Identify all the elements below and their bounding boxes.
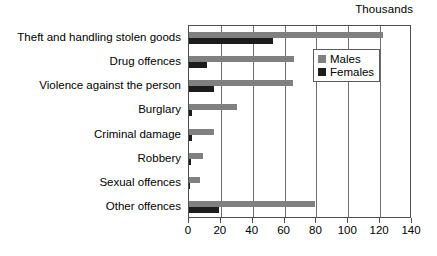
- x-tick-label: 60: [277, 224, 290, 236]
- x-tick: [347, 218, 348, 223]
- x-tick: [188, 218, 189, 223]
- bar-row: [189, 123, 410, 147]
- category-label: Sexual offences: [99, 176, 181, 188]
- crime-by-gender-bar-chart: Thousands Theft and handling stolen good…: [0, 0, 437, 256]
- bar-row: [189, 98, 410, 122]
- x-tick-label: 120: [370, 224, 389, 236]
- bar-females: [189, 62, 207, 68]
- x-tick: [315, 218, 316, 223]
- bar-males: [189, 177, 200, 183]
- bar-females: [189, 38, 273, 44]
- legend-label-females: Females: [330, 66, 374, 78]
- x-tick: [379, 218, 380, 223]
- x-tick-label: 0: [185, 224, 191, 236]
- bar-females: [189, 86, 214, 92]
- x-tick-label: 40: [245, 224, 258, 236]
- bar-females: [189, 159, 191, 165]
- category-label: Robbery: [138, 152, 181, 164]
- bar-females: [189, 135, 192, 141]
- bar-males: [189, 129, 214, 135]
- x-tick-label: 20: [213, 224, 226, 236]
- category-axis-labels: Theft and handling stolen goodsDrug offe…: [0, 25, 185, 218]
- bar-females: [189, 207, 219, 213]
- legend-swatch-males-icon: [318, 55, 326, 63]
- legend-swatch-females-icon: [318, 68, 326, 76]
- category-label: Criminal damage: [94, 128, 181, 140]
- category-label: Drug offences: [110, 55, 181, 67]
- bar-row: [189, 171, 410, 195]
- bar-females: [189, 183, 190, 189]
- bar-males: [189, 153, 203, 159]
- category-label: Violence against the person: [39, 79, 181, 91]
- bar-row: [189, 147, 410, 171]
- x-tick: [411, 218, 412, 223]
- x-tick-label: 100: [338, 224, 357, 236]
- x-tick-label: 80: [309, 224, 322, 236]
- bar-row: [189, 26, 410, 50]
- legend-item-females: Females: [318, 65, 374, 78]
- bar-row: [189, 195, 410, 219]
- units-label: Thousands: [355, 3, 413, 15]
- bar-females: [189, 110, 192, 116]
- category-label: Theft and handling stolen goods: [17, 31, 181, 43]
- bar-males: [189, 104, 237, 110]
- x-tick: [220, 218, 221, 223]
- legend: Males Females: [313, 49, 380, 82]
- category-label: Burglary: [138, 103, 181, 115]
- x-axis-tick-labels: 020406080100120140: [188, 224, 411, 242]
- x-tick-label: 140: [401, 224, 420, 236]
- legend-label-males: Males: [330, 53, 361, 65]
- x-tick: [284, 218, 285, 223]
- x-tick: [252, 218, 253, 223]
- legend-item-males: Males: [318, 52, 374, 65]
- category-label: Other offences: [106, 200, 181, 212]
